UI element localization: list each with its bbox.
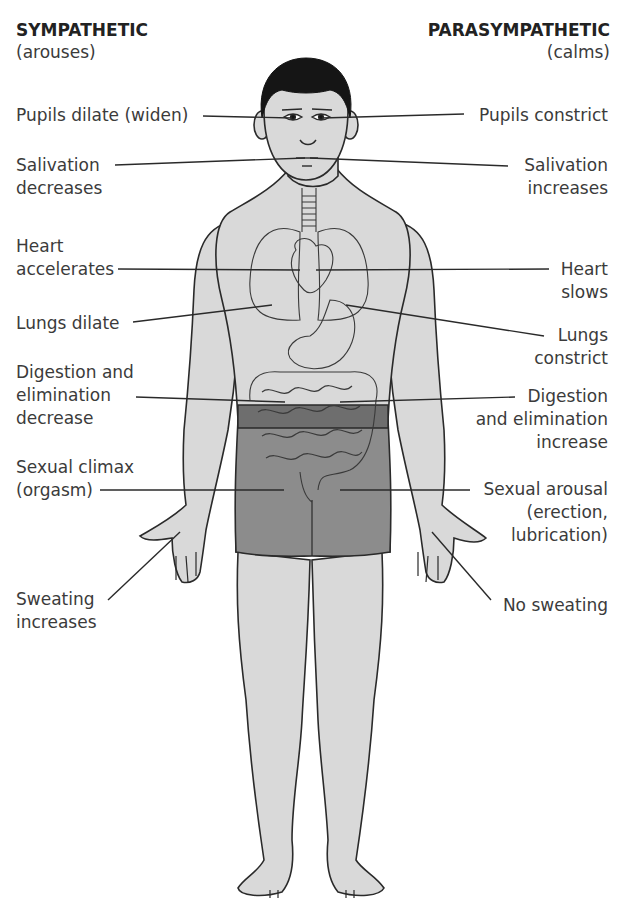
label-pupils-dilate: Pupils dilate (widen) <box>16 104 188 127</box>
label-lungs-constrict: Lungs constrict <box>534 324 608 370</box>
label-heart-accelerates: Heart accelerates <box>16 235 114 281</box>
label-salivation-increases: Salivation increases <box>524 154 608 200</box>
label-digestion-decrease: Digestion and elimination decrease <box>16 361 134 430</box>
belt <box>238 405 388 428</box>
shorts <box>235 420 391 556</box>
label-sexual-climax: Sexual climax (orgasm) <box>16 456 134 502</box>
label-no-sweating: No sweating <box>503 594 608 617</box>
label-sexual-arousal: Sexual arousal (erection, lubrication) <box>483 478 608 547</box>
label-pupils-constrict: Pupils constrict <box>479 104 608 127</box>
label-sweating-increases: Sweating increases <box>16 588 97 634</box>
label-lungs-dilate: Lungs dilate <box>16 312 120 335</box>
label-digestion-increase: Digestion and elimination increase <box>476 385 608 454</box>
label-heart-slows: Heart slows <box>561 258 608 304</box>
autonomic-nervous-system-diagram: SYMPATHETIC (arouses) PARASYMPATHETIC (c… <box>0 0 627 913</box>
label-salivation-decreases: Salivation decreases <box>16 154 102 200</box>
